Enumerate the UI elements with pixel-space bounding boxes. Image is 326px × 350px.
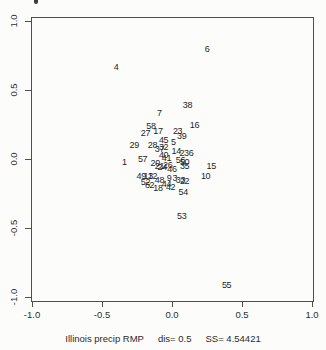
point-label-22: 22 bbox=[180, 176, 189, 186]
x-axis-tick-label: 0.5 bbox=[235, 309, 248, 320]
x-axis-tick-label: -1.0 bbox=[24, 309, 40, 320]
scatter-plot-figure: -1.0-0.50.00.51.01.00.50.0-0.5-1.0 64387… bbox=[0, 0, 326, 350]
y-axis-tick bbox=[25, 90, 31, 91]
x-axis-tick bbox=[312, 302, 313, 307]
point-label-7: 7 bbox=[157, 108, 162, 118]
y-axis-tick bbox=[25, 228, 31, 229]
y-axis-tick-label: -1.0 bbox=[8, 289, 19, 305]
point-label-39: 39 bbox=[177, 131, 186, 141]
y-axis-tick bbox=[25, 21, 31, 22]
y-axis-tick-label: -0.5 bbox=[8, 220, 19, 236]
point-label-54: 54 bbox=[178, 187, 187, 197]
y-axis-tick bbox=[25, 159, 31, 160]
point-label-35: 35 bbox=[180, 161, 189, 171]
point-label-24: 24 bbox=[157, 162, 166, 172]
caption-dataset-label: Illinois precip RMP bbox=[65, 333, 144, 344]
y-axis-tick-label: 1.0 bbox=[8, 14, 19, 27]
point-label-57: 57 bbox=[138, 154, 147, 164]
y-axis-tick bbox=[25, 297, 31, 298]
y-axis-tick-label: 0.0 bbox=[8, 152, 19, 165]
x-axis-tick-label: 0.0 bbox=[165, 309, 178, 320]
point-label-18: 18 bbox=[153, 183, 162, 193]
x-axis-tick bbox=[102, 302, 103, 307]
point-label-53: 53 bbox=[177, 211, 186, 221]
point-label-1: 1 bbox=[122, 157, 127, 167]
plot-caption: Illinois precip RMP dis= 0.5 SS= 4.54421 bbox=[0, 333, 326, 344]
point-label-16: 16 bbox=[190, 120, 199, 130]
x-axis-tick bbox=[32, 302, 33, 307]
cropped-text-artifact bbox=[34, 0, 38, 4]
point-label-6: 6 bbox=[205, 44, 210, 54]
caption-ss-value: SS= 4.54421 bbox=[206, 333, 261, 344]
x-axis-tick bbox=[242, 302, 243, 307]
x-axis-tick bbox=[172, 302, 173, 307]
point-label-42: 42 bbox=[166, 182, 175, 192]
point-label-15: 15 bbox=[206, 161, 215, 171]
point-label-27: 27 bbox=[141, 128, 150, 138]
point-label-46: 46 bbox=[167, 164, 176, 174]
point-label-55: 55 bbox=[222, 280, 231, 290]
point-label-4: 4 bbox=[114, 62, 119, 72]
x-axis-tick-label: 1.0 bbox=[305, 309, 318, 320]
caption-dis-value: dis= 0.5 bbox=[158, 333, 192, 344]
y-axis-tick-label: 0.5 bbox=[8, 83, 19, 96]
point-label-29: 29 bbox=[129, 140, 138, 150]
point-label-10: 10 bbox=[201, 171, 210, 181]
point-label-38: 38 bbox=[183, 100, 192, 110]
x-axis-tick-label: -0.5 bbox=[94, 309, 110, 320]
